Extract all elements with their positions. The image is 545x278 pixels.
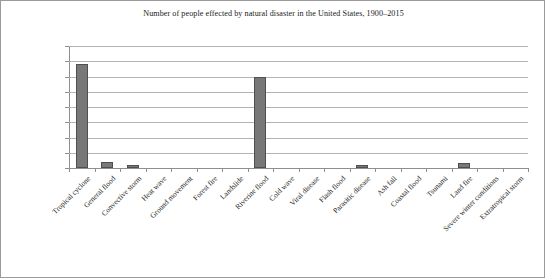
bar[interactable] bbox=[76, 64, 88, 168]
x-tick-mark bbox=[299, 168, 300, 172]
bar[interactable] bbox=[305, 167, 317, 168]
x-tick-mark bbox=[120, 168, 121, 172]
x-tick-mark bbox=[273, 168, 274, 172]
bar[interactable] bbox=[356, 165, 368, 168]
bar[interactable] bbox=[331, 167, 343, 168]
bar[interactable] bbox=[203, 167, 215, 168]
x-tick-label: Ash fall bbox=[375, 174, 398, 197]
bar[interactable] bbox=[127, 165, 139, 168]
x-tick-mark bbox=[324, 168, 325, 172]
bar[interactable] bbox=[458, 163, 470, 168]
x-tick-mark bbox=[350, 168, 351, 172]
bar[interactable] bbox=[509, 167, 521, 168]
gridline bbox=[69, 46, 528, 47]
bar[interactable] bbox=[178, 167, 190, 168]
bar[interactable] bbox=[254, 77, 266, 169]
x-tick-label: Tropical cyclone bbox=[50, 174, 92, 216]
plot-area bbox=[69, 46, 528, 168]
gridline bbox=[69, 153, 528, 154]
x-tick-label: Forest fire bbox=[191, 174, 219, 202]
x-tick-mark bbox=[375, 168, 376, 172]
chart-figure: Number of people effected by natural dis… bbox=[0, 0, 545, 278]
x-tick-mark bbox=[248, 168, 249, 172]
x-tick-mark bbox=[146, 168, 147, 172]
x-tick-mark bbox=[197, 168, 198, 172]
x-tick-mark bbox=[69, 168, 70, 172]
bar[interactable] bbox=[101, 162, 113, 168]
gridline bbox=[69, 107, 528, 108]
bar[interactable] bbox=[229, 167, 241, 168]
x-tick-mark bbox=[95, 168, 96, 172]
gridline bbox=[69, 92, 528, 93]
bar[interactable] bbox=[152, 167, 164, 168]
x-tick-mark bbox=[222, 168, 223, 172]
bar[interactable] bbox=[382, 167, 394, 168]
chart-title: Number of people effected by natural dis… bbox=[1, 9, 545, 18]
bar[interactable] bbox=[484, 167, 496, 168]
bar[interactable] bbox=[280, 167, 292, 168]
x-tick-label: Tsunami bbox=[425, 174, 450, 199]
x-tick-mark bbox=[477, 168, 478, 172]
x-tick-mark bbox=[426, 168, 427, 172]
gridline bbox=[69, 77, 528, 78]
x-tick-mark bbox=[401, 168, 402, 172]
x-tick-mark bbox=[452, 168, 453, 172]
gridline bbox=[69, 61, 528, 62]
x-tick-mark bbox=[171, 168, 172, 172]
gridline bbox=[69, 138, 528, 139]
gridline bbox=[69, 122, 528, 123]
x-tick-mark bbox=[503, 168, 504, 172]
bar[interactable] bbox=[433, 167, 445, 168]
bar[interactable] bbox=[407, 167, 419, 168]
x-tick-mark bbox=[528, 168, 529, 172]
